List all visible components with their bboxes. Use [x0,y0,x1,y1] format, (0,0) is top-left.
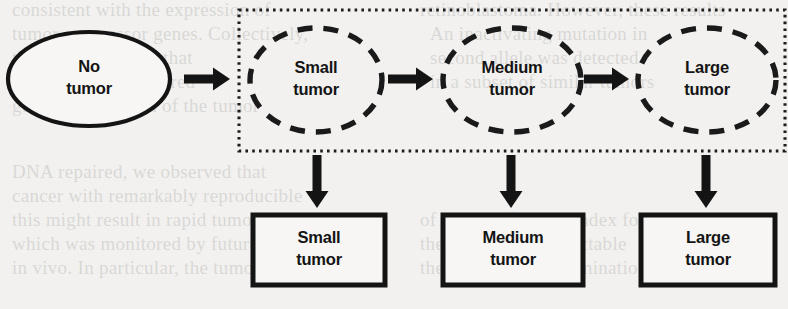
arrow-medium-state-to-observation-shaft [507,155,516,191]
arrow-large-state-to-observation [695,155,718,208]
small-tumor-state-label-line2: tumor [293,80,340,98]
diagram-root: consistent with the expression oftumor s… [0,0,788,309]
node-large-tumor-state: Largetumor [638,28,776,132]
no-tumor-label-line2: tumor [66,79,113,97]
arrow-medium-to-large [584,68,629,91]
arrow-no-to-small [184,68,230,91]
large-tumor-observation-label-line1: Large [686,228,730,246]
arrow-medium-to-large-head [612,68,629,91]
small-tumor-observation-label-line1: Small [297,228,340,246]
arrow-medium-state-to-observation-head [500,191,523,208]
arrow-medium-to-large-shaft [584,75,612,84]
medium-tumor-state-label-line1: Medium [481,58,542,76]
medium-tumor-observation-label-line1: Medium [482,228,543,246]
no-tumor-label-line1: No [78,57,100,75]
arrow-no-to-small-head [213,68,230,91]
node-large-tumor-observation: Largetumor [641,215,775,285]
arrow-small-state-to-observation [306,155,329,208]
large-tumor-observation-label-line2: tumor [685,250,732,268]
tumor-state-diagram: No tumor SmalltumorMediumtumorLargetumor… [0,0,788,309]
hidden-states: SmalltumorMediumtumorLargetumor [250,28,776,132]
arrow-large-state-to-observation-head [695,191,718,208]
medium-tumor-observation-label-line2: tumor [490,250,537,268]
node-medium-tumor-state: Mediumtumor [443,28,581,132]
node-no-tumor: No tumor [8,32,170,126]
arrow-small-to-medium [388,68,433,91]
arrow-large-state-to-observation-shaft [702,155,711,191]
large-tumor-state-label-line1: Large [685,58,729,76]
observation-nodes: SmalltumorMediumtumorLargetumor [253,215,775,285]
arrow-small-to-medium-shaft [388,75,416,84]
arrow-small-state-to-observation-shaft [313,155,322,191]
node-small-tumor-state: Smalltumor [250,28,382,132]
medium-tumor-state-label-line2: tumor [489,80,536,98]
small-tumor-observation-label-line2: tumor [296,250,343,268]
arrow-medium-state-to-observation [500,155,523,208]
node-small-tumor-observation: Smalltumor [253,215,385,285]
arrow-small-to-medium-head [416,68,433,91]
small-tumor-state-label-line1: Small [294,58,337,76]
large-tumor-state-label-line2: tumor [684,80,731,98]
node-medium-tumor-observation: Mediumtumor [443,215,583,285]
arrow-small-state-to-observation-head [306,191,329,208]
arrow-no-to-small-shaft [184,75,213,84]
